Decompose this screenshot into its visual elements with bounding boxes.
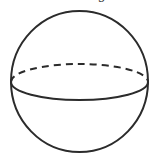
sphere-drawing (0, 0, 156, 159)
equator-back-dashed (11, 64, 148, 82)
sphere-diagram: 5 (0, 0, 156, 159)
sphere-outline (11, 11, 148, 152)
equator-front-solid (11, 82, 148, 100)
